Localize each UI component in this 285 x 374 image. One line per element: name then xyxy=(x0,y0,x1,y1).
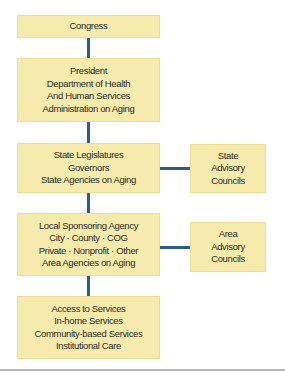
node-services-line: Community-based Services xyxy=(35,328,143,341)
node-state-advisory-line: Advisory xyxy=(211,162,245,175)
node-local-line: City · County · COG xyxy=(49,232,127,245)
connector-local-area-advisory xyxy=(160,246,190,249)
node-federal-line: And Human Services xyxy=(47,90,130,103)
node-state-line: Governors xyxy=(68,162,109,175)
node-area-advisory-line: Advisory xyxy=(211,241,245,254)
node-local-line: Local Sponsoring Agency xyxy=(39,220,138,233)
connector-state-state-advisory xyxy=(160,167,190,170)
node-federal-line: Department of Health xyxy=(47,78,130,91)
connector-congress-federal xyxy=(87,38,90,58)
node-services-line: Access to Services xyxy=(52,303,126,316)
node-area-advisory-line: Area xyxy=(219,228,238,241)
node-state: State Legislatures Governors State Agenc… xyxy=(17,143,160,193)
node-congress-line: Congress xyxy=(70,20,108,33)
node-local-line: Area Agencies on Aging xyxy=(42,257,135,270)
node-state-advisory: State Advisory Councils xyxy=(190,144,266,193)
node-area-advisory: Area Advisory Councils xyxy=(190,222,266,272)
node-services: Access to Services In-home Services Comm… xyxy=(17,296,160,359)
node-federal: President Department of Health And Human… xyxy=(17,58,160,122)
node-federal-line: President xyxy=(70,65,107,78)
node-services-line: Institutional Care xyxy=(56,340,121,353)
node-local: Local Sponsoring Agency City · County · … xyxy=(17,213,160,276)
node-state-advisory-line: Councils xyxy=(211,175,245,188)
node-state-advisory-line: State xyxy=(218,150,238,163)
node-state-line: State Agencies on Aging xyxy=(41,174,136,187)
node-area-advisory-line: Councils xyxy=(211,253,245,266)
connector-state-local xyxy=(87,193,90,213)
connector-local-services xyxy=(87,276,90,296)
node-federal-line: Administration on Aging xyxy=(43,103,135,116)
connector-federal-state xyxy=(87,122,90,143)
node-congress: Congress xyxy=(17,15,160,38)
node-local-line: Private · Nonprofit · Other xyxy=(39,245,138,258)
bottom-rule-divider xyxy=(0,369,285,371)
node-services-line: In-home Services xyxy=(54,315,122,328)
node-state-line: State Legislatures xyxy=(54,149,124,162)
